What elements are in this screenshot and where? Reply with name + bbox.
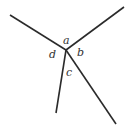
angle-label-b: b — [77, 46, 84, 59]
angle-diagram: a b c d — [0, 0, 130, 127]
ray-lower-left — [56, 50, 66, 113]
angle-label-c: c — [66, 66, 72, 79]
angle-label-a: a — [63, 34, 70, 47]
ray-upper-right — [66, 7, 124, 50]
ray-lower-right — [66, 50, 116, 124]
angle-label-d: d — [49, 48, 56, 61]
ray-upper-left — [10, 15, 66, 50]
